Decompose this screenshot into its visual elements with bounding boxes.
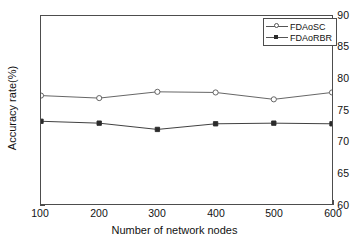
legend-label-fdaorbr: FDAoRBR [288, 33, 332, 43]
y-tick-mark [40, 205, 45, 206]
legend-marker-circle-icon [266, 21, 288, 32]
chart-legend: FDAoSC FDAoRBR [263, 18, 337, 46]
series-line-fdaorbr [41, 121, 332, 129]
data-point-marker [330, 122, 332, 126]
data-point-marker [41, 119, 43, 123]
y-axis-title: Accuracy rate(%) [6, 33, 18, 183]
x-tick-label-600: 600 [313, 208, 353, 219]
data-point-marker [97, 121, 101, 125]
legend-item-fdaorbr: FDAoRBR [266, 32, 332, 43]
legend-marker-square-icon [266, 32, 288, 43]
data-point-marker [41, 93, 44, 98]
x-tick-label-500: 500 [254, 208, 294, 219]
x-tick-mark [333, 200, 334, 205]
data-point-marker [97, 96, 102, 101]
legend-item-fdaosc: FDAoSC [266, 21, 332, 32]
data-point-marker [213, 122, 217, 126]
data-point-marker [271, 97, 276, 102]
legend-label-fdaosc: FDAoSC [288, 22, 326, 32]
x-tick-label-400: 400 [196, 208, 236, 219]
data-point-marker [213, 90, 218, 95]
series-line-fdaosc [41, 92, 332, 100]
data-point-marker [155, 89, 160, 94]
x-tick-label-100: 100 [20, 208, 60, 219]
data-point-marker [272, 121, 276, 125]
data-point-marker [329, 90, 332, 95]
x-tick-label-300: 300 [137, 208, 177, 219]
x-axis-title: Number of network nodes [0, 224, 349, 236]
data-point-marker [155, 127, 159, 131]
x-tick-label-200: 200 [79, 208, 119, 219]
